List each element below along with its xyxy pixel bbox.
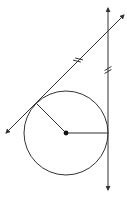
center-point <box>64 131 69 136</box>
tangent-circle-diagram <box>0 0 127 198</box>
diagonal-tangent-line <box>6 15 124 133</box>
radius-to-upper-left <box>36 103 66 133</box>
